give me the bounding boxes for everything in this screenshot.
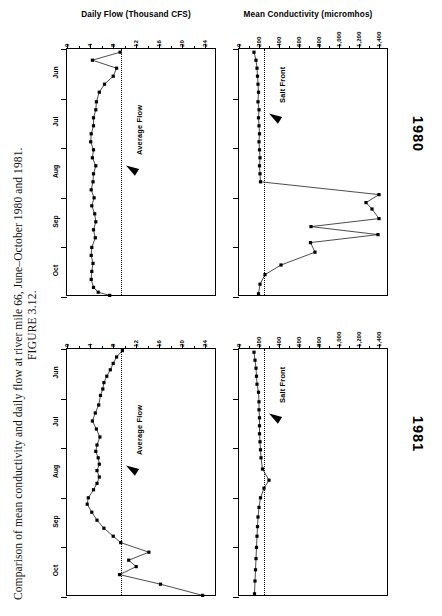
value-axis-label: 12 [132, 340, 139, 347]
value-axis-label: 800 [315, 337, 322, 347]
value-axis-label: 16 [155, 40, 162, 47]
month-label-aug: Aug [52, 462, 59, 482]
value-axis-label: 1,400 [375, 332, 382, 347]
plot-area-cond-1980: 02004006008001,0001,2001,400Salt Front [238, 48, 388, 296]
month-label-aug: Aug [52, 162, 59, 182]
value-axis-label: 200 [255, 337, 262, 347]
month-label-sep: Sep [52, 511, 59, 531]
value-axis-label: 1,200 [355, 32, 362, 47]
data-series [67, 349, 217, 599]
month-label-jul: Jul [52, 112, 59, 132]
plot-area-flow-1980: 04812162024JunJulAugSepOctAverage Flow [66, 48, 216, 296]
month-label-jun: Jun [52, 362, 59, 382]
chart-flow-1981: 04812162024JunJulAugSepOctAverage Flow [52, 308, 220, 608]
value-axis-label: 16 [155, 340, 162, 347]
month-label-jul: Jul [52, 412, 59, 432]
figure-number: FIGURE 3.12. [26, 290, 38, 360]
value-axis-label: 4 [86, 344, 93, 347]
value-axis-label: 24 [201, 340, 208, 347]
figure-caption-block: FIGURE 3.12. Comparison of mean conducti… [0, 0, 48, 616]
value-axis-label: 0 [63, 344, 70, 347]
year-panel-1980: 1980 Daily Flow (Thousand CFS) 048121620… [48, 8, 442, 308]
value-axis-label: 800 [315, 37, 322, 47]
year-label-1980: 1980 [410, 116, 426, 152]
figure-caption-text: Comparison of mean conductivity and dail… [12, 148, 24, 601]
data-series [67, 49, 217, 299]
plot-area-flow-1981: 04812162024JunJulAugSepOctAverage Flow [66, 348, 216, 596]
cond-axis-title: Mean Conductivity (micromhos) [224, 10, 392, 19]
year-panel-1981: 1981 04812162024JunJulAugSepOctAverage F… [48, 308, 442, 608]
value-axis-label: 8 [109, 44, 116, 47]
month-label-jun: Jun [52, 62, 59, 82]
value-axis-label: 4 [86, 44, 93, 47]
value-axis-label: 12 [132, 40, 139, 47]
chart-flow-1980: Daily Flow (Thousand CFS) 04812162024Jun… [52, 8, 220, 308]
value-axis-label: 1,400 [375, 32, 382, 47]
month-label-oct: Oct [52, 561, 59, 581]
month-label-oct: Oct [52, 261, 59, 281]
value-axis-label: 0 [63, 44, 70, 47]
value-axis-label: 20 [178, 40, 185, 47]
value-axis-label: 24 [201, 40, 208, 47]
value-axis-label: 400 [275, 37, 282, 47]
value-axis-label: 0 [235, 44, 242, 47]
value-axis-label: 20 [178, 340, 185, 347]
value-axis-label: 600 [295, 337, 302, 347]
value-axis-label: 8 [109, 344, 116, 347]
flow-axis-title: Daily Flow (Thousand CFS) [52, 10, 220, 19]
value-axis-label: 1,000 [335, 332, 342, 347]
data-series [239, 49, 389, 299]
value-axis-label: 0 [235, 344, 242, 347]
chart-cond-1980: Mean Conductivity (micromhos) 0200400600… [224, 8, 392, 308]
chart-cond-1981: 02004006008001,0001,2001,400Salt Front [224, 308, 392, 608]
month-label-sep: Sep [52, 211, 59, 231]
value-axis-label: 200 [255, 37, 262, 47]
value-axis-label: 1,000 [335, 32, 342, 47]
year-label-1981: 1981 [410, 416, 426, 452]
value-axis-label: 1,200 [355, 332, 362, 347]
value-axis-label: 600 [295, 37, 302, 47]
plot-area-cond-1981: 02004006008001,0001,2001,400Salt Front [238, 348, 388, 596]
data-series [239, 349, 389, 599]
value-axis-label: 400 [275, 337, 282, 347]
